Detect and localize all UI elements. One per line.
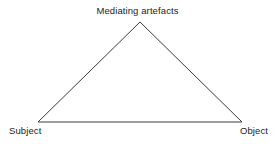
activity-triangle-graphic xyxy=(0,0,277,144)
diagram-canvas: Mediating artefacts Subject Object xyxy=(0,0,277,144)
node-label-subject: Subject xyxy=(9,125,41,136)
triangle-shape xyxy=(38,22,242,122)
node-label-object: Object xyxy=(240,125,268,136)
node-label-mediating-artefacts: Mediating artefacts xyxy=(0,5,276,16)
